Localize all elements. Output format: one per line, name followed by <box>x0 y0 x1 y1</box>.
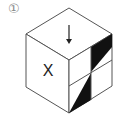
isometric-cube: X <box>0 0 118 123</box>
left-face-x-symbol: X <box>43 62 54 79</box>
